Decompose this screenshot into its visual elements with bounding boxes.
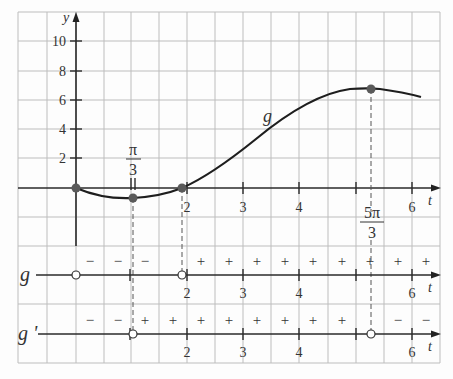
svg-text:+: +	[197, 312, 205, 328]
svg-text:t: t	[428, 339, 433, 354]
svg-text:+: +	[225, 253, 233, 269]
svg-text:2: 2	[184, 286, 191, 301]
curve-g-label: g	[263, 106, 272, 126]
svg-text:+: +	[141, 312, 149, 328]
svg-text:+: +	[338, 312, 346, 328]
svg-text:−: −	[86, 253, 94, 269]
y-axis-label: y	[61, 10, 70, 25]
point-maximum	[367, 85, 376, 94]
svg-text:−: −	[86, 312, 94, 328]
svg-text:+: +	[366, 253, 374, 269]
svg-text:3: 3	[240, 345, 247, 360]
svg-text:3: 3	[129, 161, 137, 178]
svg-text:−: −	[141, 253, 149, 269]
svg-text:+: +	[281, 253, 289, 269]
point-minimum	[129, 194, 138, 203]
zero-marker	[72, 271, 80, 279]
pi-over-3-label: π 3	[126, 141, 141, 178]
svg-text:4: 4	[296, 345, 303, 360]
y-tick-label: 10	[52, 34, 66, 49]
svg-text:+: +	[281, 312, 289, 328]
x-tick-label: 4	[296, 200, 303, 215]
function-sign-diagram: y 2 4 6 8 10 t 2 3 4 6 π 3 5π 3	[0, 0, 453, 379]
x-tick-label: 3	[240, 200, 247, 215]
svg-text:6: 6	[409, 345, 416, 360]
svg-text:−: −	[394, 312, 402, 328]
y-tick-label: 4	[59, 122, 66, 137]
sign-table-g-label: g	[20, 263, 30, 286]
svg-text:−: −	[114, 253, 122, 269]
point-zero	[178, 184, 187, 193]
curve-g	[76, 88, 421, 198]
svg-text:+: +	[169, 312, 177, 328]
five-pi-over-3-label: 5π 3	[360, 204, 384, 241]
point-origin	[72, 184, 81, 193]
y-tick-label: 8	[59, 64, 66, 79]
svg-text:5π: 5π	[364, 204, 380, 221]
svg-text:−: −	[422, 312, 430, 328]
svg-text:3: 3	[240, 286, 247, 301]
y-tick-label: 6	[59, 93, 66, 108]
zero-marker	[367, 330, 375, 338]
svg-text:+: +	[253, 312, 261, 328]
x-tick-label: 2	[184, 200, 191, 215]
y-tick-label: 2	[59, 151, 66, 166]
svg-text:+: +	[394, 253, 402, 269]
x-tick-label: 6	[409, 200, 416, 215]
svg-text:4: 4	[296, 286, 303, 301]
svg-text:+: +	[338, 253, 346, 269]
guide-lines	[133, 89, 371, 334]
svg-text:2: 2	[184, 345, 191, 360]
sign-table-g: g t 2 3 4 6 − − − + + + + + + + + +	[20, 253, 441, 301]
zero-marker	[129, 330, 137, 338]
svg-text:+: +	[253, 253, 261, 269]
svg-text:+: +	[225, 312, 233, 328]
svg-text:6: 6	[409, 286, 416, 301]
sign-table-g-prime-label: g '	[18, 322, 38, 345]
svg-text:π: π	[129, 141, 137, 158]
svg-text:+: +	[309, 253, 317, 269]
svg-text:+: +	[197, 253, 205, 269]
x-axis-label: t	[428, 193, 433, 208]
svg-text:+: +	[422, 253, 430, 269]
svg-text:t: t	[428, 280, 433, 295]
svg-text:3: 3	[368, 224, 376, 241]
zero-marker	[178, 271, 186, 279]
sign-table-g-prime: g ' t 2 3 4 6 − − + + + + + + + + − −	[18, 312, 441, 360]
svg-text:+: +	[309, 312, 317, 328]
marked-points	[72, 85, 376, 203]
svg-text:−: −	[114, 312, 122, 328]
